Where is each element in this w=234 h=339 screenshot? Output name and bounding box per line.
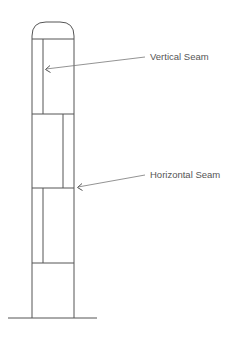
leader-line — [78, 175, 145, 187]
column-cap — [32, 22, 74, 39]
leader-line — [46, 57, 145, 69]
horizontal-seam-callout: Horizontal Seam — [78, 169, 221, 191]
horizontal-seam-label: Horizontal Seam — [150, 169, 220, 180]
vertical-seam-callout: Vertical Seam — [46, 51, 209, 73]
vertical-seam-label: Vertical Seam — [150, 51, 209, 62]
seam-diagram: Vertical Seam Horizontal Seam — [0, 0, 234, 339]
